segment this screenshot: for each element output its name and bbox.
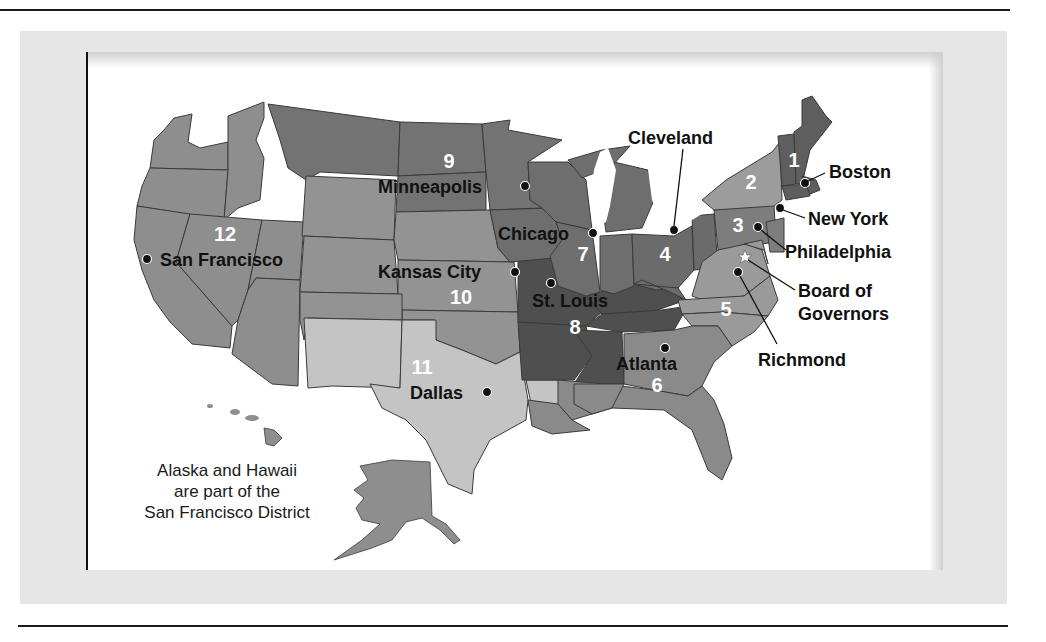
label-governors: Governors: [798, 304, 889, 324]
label-atlanta: Atlanta: [616, 354, 678, 374]
st-louis-dot: [547, 279, 556, 288]
district-number-7: 7: [577, 243, 588, 265]
district-number-10: 10: [450, 286, 472, 308]
top-rule: [0, 9, 1010, 11]
district-number-9: 9: [443, 150, 454, 172]
cleveland-dot: [670, 226, 679, 235]
label-cleveland: Cleveland: [628, 128, 713, 148]
district-number-3: 3: [732, 214, 743, 236]
district-number-12: 12: [214, 223, 236, 245]
boston-dot: [801, 179, 810, 188]
note-line-2: are part of the: [112, 481, 342, 502]
atlanta-dot: [661, 344, 670, 353]
kansas-city-dot: [511, 268, 520, 277]
label-chicago: Chicago: [498, 224, 569, 244]
label-new-york: New York: [808, 209, 889, 229]
note-line-3: San Francisco District: [112, 502, 342, 523]
alaska-hawaii-note: Alaska and Hawaii are part of the San Fr…: [112, 460, 342, 523]
district-number-8: 8: [569, 316, 580, 338]
district-number-4: 4: [659, 243, 671, 265]
district-number-5: 5: [720, 298, 731, 320]
dallas-dot: [483, 388, 492, 397]
district-number-6: 6: [651, 374, 662, 396]
bottom-rule: [18, 625, 1008, 627]
hawaii-region: [207, 404, 282, 446]
label-richmond: Richmond: [758, 350, 846, 370]
label-san-francisco: San Francisco: [160, 250, 283, 270]
district-number-1: 1: [788, 149, 799, 171]
note-line-1: Alaska and Hawaii: [112, 460, 342, 481]
label-board-of: Board of: [798, 281, 873, 301]
label-dallas: Dallas: [410, 383, 463, 403]
san-francisco-dot: [143, 255, 152, 264]
richmond-dot: [734, 268, 743, 277]
minneapolis-dot: [521, 182, 530, 191]
district-number-2: 2: [745, 171, 756, 193]
label-minneapolis: Minneapolis: [378, 177, 482, 197]
label-philadelphia: Philadelphia: [785, 242, 892, 262]
alaska-region: [334, 460, 460, 560]
district-number-11: 11: [411, 356, 432, 378]
label-boston: Boston: [829, 162, 891, 182]
new-york-dot: [776, 204, 785, 213]
label-st-louis: St. Louis: [532, 291, 608, 311]
label-kansas-city: Kansas City: [378, 262, 481, 282]
chicago-dot: [589, 229, 598, 238]
district-2-region: [702, 142, 782, 210]
